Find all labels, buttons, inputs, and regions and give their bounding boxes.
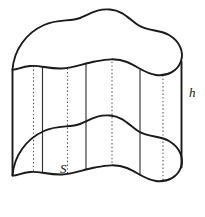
height-label: h — [189, 86, 196, 99]
top-face — [13, 9, 182, 75]
generalized-cylinder-diagram — [0, 0, 205, 217]
figure-canvas: S h — [0, 0, 205, 217]
cross-section-label: S — [60, 162, 67, 175]
